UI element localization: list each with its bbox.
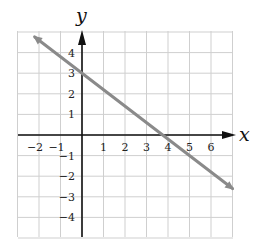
- line-series: [35, 37, 233, 189]
- y-tick-label: 3: [68, 67, 75, 80]
- x-tick-label: 2: [122, 141, 129, 154]
- y-tick-label: −3: [59, 191, 75, 204]
- x-tick-label: 5: [186, 141, 193, 154]
- x-axis-arrow-icon: [222, 131, 236, 139]
- x-tick-label: 3: [143, 141, 150, 154]
- y-axis-label: y: [75, 4, 87, 26]
- y-tick-label: −2: [59, 170, 75, 183]
- coordinate-plane: −2−11234564321−1−2−3−4 x y: [0, 0, 263, 251]
- x-tick-label: 1: [100, 141, 107, 154]
- y-tick-label: 4: [68, 47, 75, 60]
- y-tick-label: 1: [68, 108, 75, 121]
- x-axis-label: x: [239, 123, 250, 145]
- axes: [18, 30, 236, 237]
- x-tick-label: 6: [208, 141, 215, 154]
- y-tick-label: 2: [68, 88, 75, 101]
- y-tick-label: −1: [59, 150, 75, 163]
- data-line: [33, 36, 234, 190]
- y-tick-label: −4: [59, 211, 75, 224]
- x-tick-label: 4: [165, 141, 172, 154]
- x-tick-label: −2: [27, 141, 43, 154]
